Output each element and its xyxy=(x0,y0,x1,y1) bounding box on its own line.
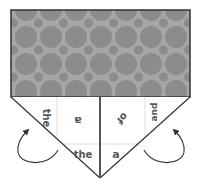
svg-text:a: a xyxy=(112,148,119,161)
folding-diagram: the a the of and a xyxy=(0,0,198,189)
patterned-panel xyxy=(11,10,190,97)
word-right-bottom: a xyxy=(112,148,119,161)
word-left-inner: a xyxy=(74,114,81,127)
right-fold-arrow-icon xyxy=(144,131,184,163)
svg-text:the: the xyxy=(41,109,52,128)
svg-text:the: the xyxy=(74,149,93,160)
left-fold-arrow-icon xyxy=(18,131,58,163)
word-right-outer: and xyxy=(149,103,159,122)
svg-text:and: and xyxy=(149,103,159,122)
svg-text:a: a xyxy=(74,114,81,127)
word-left-bottom: the xyxy=(74,149,93,160)
word-left-outer: the xyxy=(41,109,52,128)
